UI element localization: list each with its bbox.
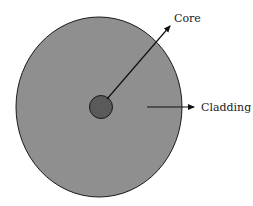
fiber-cross-section-diagram: Core Cladding [0, 0, 253, 206]
core-label: Core [174, 12, 201, 25]
core-circle [90, 96, 113, 119]
cladding-label: Cladding [201, 101, 251, 114]
